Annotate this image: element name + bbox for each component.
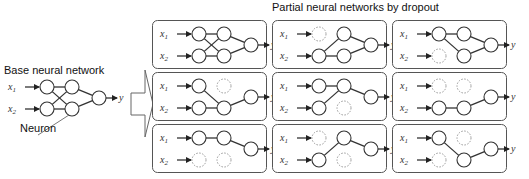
output-label-y: y xyxy=(510,91,516,102)
partial-network-8: x1x2y xyxy=(273,125,397,173)
neuron-h1 xyxy=(217,27,231,41)
neuron-i2 xyxy=(192,49,206,63)
partial-networks-grid: x1x2yx1x2yx1x2yx1x2yx1x2yx1x2yx1x2yx1x2y… xyxy=(153,21,517,173)
neuron-i2 xyxy=(40,102,54,116)
dropped-neuron-h1 xyxy=(457,131,471,145)
connection-edge xyxy=(78,101,92,107)
partial-network-6: x1x2y xyxy=(393,73,517,121)
partial-network-2: x1x2y xyxy=(273,21,397,69)
neuron-label: Neuron xyxy=(20,122,56,134)
partial-network-3: x1x2y xyxy=(393,21,517,69)
partial-network-5: x1x2y xyxy=(273,73,397,121)
neuron-h2 xyxy=(65,102,79,116)
neuron-i1 xyxy=(192,131,206,145)
neuron-i1 xyxy=(192,79,206,93)
dropped-neuron-h1 xyxy=(457,79,471,93)
input-label-x1: x1 xyxy=(7,81,16,94)
partial-network-1: x1x2y xyxy=(153,21,277,69)
neuron-h1 xyxy=(65,80,79,94)
dropped-neuron-i1 xyxy=(312,27,326,41)
dropped-neuron-i2 xyxy=(432,153,446,167)
partial-network-9: x1x2y xyxy=(393,125,517,173)
neuron-o xyxy=(244,38,258,52)
neuron-i1 xyxy=(40,80,54,94)
neuron-h1 xyxy=(337,79,351,93)
neuron-o xyxy=(364,38,378,52)
neuron-o xyxy=(92,91,106,105)
dropout-diagram: x1x2yNeuron x1x2yx1x2yx1x2yx1x2yx1x2yx1x… xyxy=(0,0,529,179)
neuron-h1 xyxy=(337,27,351,41)
neuron-i2 xyxy=(312,49,326,63)
output-label-y: y xyxy=(118,92,124,103)
partial-network-7: x1x2y xyxy=(153,125,277,173)
dropped-neuron-h2 xyxy=(337,101,351,115)
neuron-h1 xyxy=(337,131,351,145)
dropped-neuron-i2 xyxy=(192,153,206,167)
neuron-h2 xyxy=(217,101,231,115)
neuron-h1 xyxy=(457,27,471,41)
neuron-i1 xyxy=(192,27,206,41)
neuron-h2 xyxy=(457,153,471,167)
neuron-i2 xyxy=(312,153,326,167)
neuron-i2 xyxy=(432,101,446,115)
connection-edge xyxy=(78,90,92,96)
dropped-neuron-i2 xyxy=(432,49,446,63)
neuron-o xyxy=(484,90,498,104)
neuron-h2 xyxy=(457,49,471,63)
neuron-h1 xyxy=(217,131,231,145)
input-label-x2: x2 xyxy=(7,103,16,116)
neuron-i1 xyxy=(432,27,446,41)
neuron-h2 xyxy=(457,101,471,115)
neuron-i2 xyxy=(192,101,206,115)
neuron-o xyxy=(484,38,498,52)
neuron-o xyxy=(244,90,258,104)
neuron-o xyxy=(244,142,258,156)
base-neural-network: x1x2yNeuron xyxy=(7,80,124,135)
neuron-o xyxy=(364,142,378,156)
dropped-neuron-h2 xyxy=(217,153,231,167)
dropped-neuron-i1 xyxy=(312,131,326,145)
dropped-neuron-h1 xyxy=(217,79,231,93)
neuron-h2 xyxy=(337,49,351,63)
output-label-y: y xyxy=(510,39,516,50)
neuron-h2 xyxy=(217,49,231,63)
neuron-i1 xyxy=(312,79,326,93)
neuron-i2 xyxy=(312,101,326,115)
output-label-y: y xyxy=(510,143,516,154)
neuron-o xyxy=(364,90,378,104)
neuron-o xyxy=(484,142,498,156)
neuron-i1 xyxy=(432,131,446,145)
dropped-neuron-h2 xyxy=(337,153,351,167)
transform-arrow-icon xyxy=(131,70,153,137)
dropped-neuron-i1 xyxy=(432,79,446,93)
partial-network-4: x1x2y xyxy=(153,73,277,121)
